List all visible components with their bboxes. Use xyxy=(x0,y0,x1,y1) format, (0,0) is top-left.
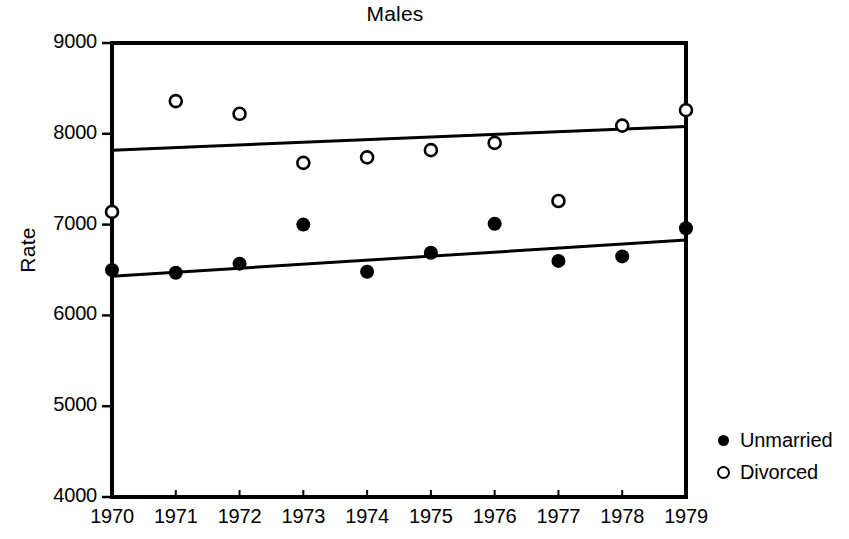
x-tick-label: 1971 xyxy=(141,505,211,528)
data-point-divorced-1973 xyxy=(297,157,309,169)
y-tick-label: 4000 xyxy=(31,484,97,507)
y-tick-label: 7000 xyxy=(31,212,97,235)
data-point-divorced-1972 xyxy=(234,108,246,120)
x-tick-label: 1970 xyxy=(77,505,147,528)
data-point-divorced-1977 xyxy=(552,195,564,207)
legend-item-divorced: Divorced xyxy=(712,456,849,488)
y-tick-label: 9000 xyxy=(31,30,97,53)
data-point-unmarried-1973 xyxy=(296,218,310,232)
open-circle-icon xyxy=(712,466,734,479)
chart-figure: Males Rate 400050006000700080009000 1970… xyxy=(0,0,849,539)
data-point-unmarried-1976 xyxy=(488,217,502,231)
x-tick-label: 1979 xyxy=(651,505,721,528)
data-point-unmarried-1978 xyxy=(615,249,629,263)
y-tick-label: 5000 xyxy=(31,393,97,416)
trend-lines xyxy=(112,127,686,277)
filled-circle-icon xyxy=(712,435,734,446)
x-tick-label: 1977 xyxy=(523,505,593,528)
y-tick-label: 6000 xyxy=(31,302,97,325)
data-point-unmarried-1979 xyxy=(679,221,693,235)
y-tick-label: 8000 xyxy=(31,121,97,144)
data-point-divorced-1978 xyxy=(616,120,628,132)
x-tick-label: 1972 xyxy=(205,505,275,528)
data-point-unmarried-1971 xyxy=(169,266,183,280)
data-point-divorced-1974 xyxy=(361,151,373,163)
data-point-unmarried-1972 xyxy=(233,257,247,271)
data-point-divorced-1970 xyxy=(106,206,118,218)
x-tick-label: 1973 xyxy=(268,505,338,528)
legend-label-divorced: Divorced xyxy=(734,461,818,484)
chart-legend: Unmarried Divorced xyxy=(712,424,849,488)
data-point-unmarried-1977 xyxy=(551,254,565,268)
trend-line-unmarried xyxy=(112,240,686,276)
data-point-unmarried-1970 xyxy=(105,263,119,277)
x-tick-label: 1976 xyxy=(460,505,530,528)
data-point-divorced-1976 xyxy=(489,137,501,149)
data-point-divorced-1975 xyxy=(425,144,437,156)
legend-item-unmarried: Unmarried xyxy=(712,424,849,456)
x-tick-label: 1974 xyxy=(332,505,402,528)
trend-line-divorced xyxy=(112,127,686,151)
data-points xyxy=(105,95,693,280)
x-tick-label: 1978 xyxy=(587,505,657,528)
legend-label-unmarried: Unmarried xyxy=(734,429,832,452)
x-tick-label: 1975 xyxy=(396,505,466,528)
data-point-divorced-1979 xyxy=(680,104,692,116)
data-point-divorced-1971 xyxy=(170,95,182,107)
data-point-unmarried-1975 xyxy=(424,246,438,260)
data-point-unmarried-1974 xyxy=(360,265,374,279)
